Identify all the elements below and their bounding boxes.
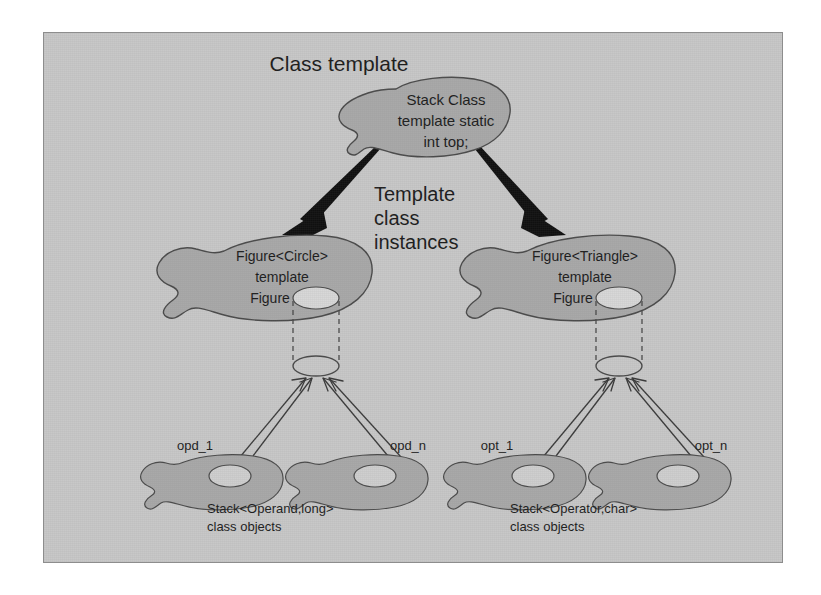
instance-left-line-1: Figure<Circle>: [236, 248, 328, 264]
caption-operand-objects: Stack<Operand,long> class objects: [207, 501, 333, 534]
instance-right-member-hole-icon: [596, 287, 642, 309]
instance-left-line-2: template: [255, 269, 309, 285]
opd-1-hole-icon: [209, 465, 251, 487]
caption-operand-line-1: Stack<Operand,long>: [207, 501, 333, 516]
opt-1-hole-icon: [512, 465, 554, 487]
figure-root: Class template Stack Class template stat…: [0, 0, 821, 595]
diagram-svg: Class template Stack Class template stat…: [44, 33, 783, 563]
object-blob-opd-n: opd_n: [286, 438, 428, 510]
middle-label-line-1: Template: [374, 183, 455, 205]
middle-label: Template class instances: [374, 183, 459, 253]
edge-template-to-left-instance: [282, 139, 389, 237]
middle-label-line-2: class: [374, 207, 420, 229]
object-blob-opd-1: opd_1: [141, 438, 283, 510]
class-template-line-3: int top;: [423, 133, 468, 150]
node-instance-left-blob: Figure<Circle> template Figure: [157, 235, 372, 321]
opd-n-hole-icon: [354, 465, 396, 487]
caption-operand-line-2: class objects: [207, 519, 282, 534]
node-class-template-blob: Stack Class template static int top;: [339, 77, 510, 157]
caption-operator-objects: Stack<Operator,char> class objects: [510, 501, 637, 534]
middle-label-line-3: instances: [374, 231, 459, 253]
caption-operator-line-2: class objects: [510, 519, 585, 534]
caption-operator-line-1: Stack<Operator,char>: [510, 501, 637, 516]
edges-operand-objects: [240, 378, 401, 457]
object-label-opd-n: opd_n: [390, 438, 426, 453]
diagram-frame: Class template Stack Class template stat…: [43, 32, 783, 563]
object-label-opd-1: opd_1: [177, 438, 213, 453]
object-blob-opt-1: opt_1: [444, 438, 586, 510]
instance-right-line-3: Figure: [553, 290, 593, 306]
object-label-opt-n: opt_n: [695, 438, 728, 453]
object-label-opt-1: opt_1: [481, 438, 514, 453]
diagram-title: Class template: [270, 52, 409, 75]
instance-right-line-1: Figure<Triangle>: [532, 248, 638, 264]
instance-left-line-3: Figure: [250, 290, 290, 306]
edge-template-to-right-instance: [467, 139, 566, 237]
instance-left-member-hole-icon: [293, 287, 339, 309]
class-template-line-1: Stack Class: [406, 91, 485, 108]
object-blob-opt-n: opt_n: [589, 438, 731, 510]
instance-right-line-2: template: [558, 269, 612, 285]
class-template-line-2: template static: [398, 112, 495, 129]
opt-n-hole-icon: [657, 465, 699, 487]
edges-operator-objects: [543, 378, 704, 457]
node-instance-right-blob: Figure<Triangle> template Figure: [460, 235, 675, 321]
